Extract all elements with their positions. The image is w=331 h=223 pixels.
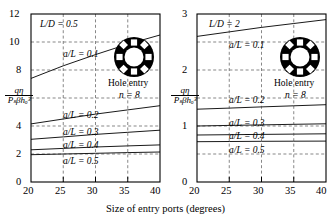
xtick-label-25-left: 25	[55, 185, 66, 196]
hole-entry-icon	[280, 37, 320, 77]
ytick-label-0-left: 0	[16, 176, 21, 187]
curve-label-a-L-0.4-right: a/L = 0.4	[229, 131, 265, 141]
x-axis-label: Size of entry ports (degrees)	[0, 203, 331, 214]
hole-entry-label-left: Hole entry	[108, 78, 148, 88]
ytick-label-3-right: 3	[182, 8, 187, 19]
ytick-label-2-right: 2	[182, 64, 187, 75]
y-axis-denominator-left: Pₛβhₒ³	[5, 96, 33, 105]
chart-panel-right: 3 2 1 0 qη Pₛβhₒ³ 20 25 30 35 40 L/D = 2…	[166, 0, 331, 223]
curve-label-a-L-0.5-right: a/L = 0.5	[229, 145, 265, 155]
curve-label-a-L-0.2-right: a/L = 0.2	[229, 95, 265, 105]
panel-title-left: L/D = 0.5	[40, 19, 78, 29]
curve-label-a-L-0.1-left: a/L = 0.1	[63, 49, 99, 59]
y-axis-label-left: qη Pₛβhₒ³	[5, 86, 33, 106]
xtick-label-40-right: 40	[316, 185, 327, 196]
hole-entry-icon	[114, 37, 154, 77]
hole-entry-label-right: Hole entry	[274, 78, 314, 88]
ytick-label-4-left: 4	[16, 120, 21, 131]
panel-title-right: L/D = 2	[209, 19, 240, 29]
curve-label-a-L-0.1-right: a/L = 0.1	[229, 40, 265, 50]
ytick-label-8-left: 8	[16, 64, 21, 75]
ytick-label-0-right: 0	[182, 176, 187, 187]
n-value-label-left: n = 8	[119, 90, 140, 100]
chart-panel-left: 12 10 8 4 2 0 qη Pₛβhₒ³ 20 25 30 35 40 L…	[0, 0, 165, 223]
figure-two-panel-chart: 12 10 8 4 2 0 qη Pₛβhₒ³ 20 25 30 35 40 L…	[0, 0, 331, 223]
xtick-label-35-left: 35	[119, 185, 130, 196]
ytick-label-12-left: 12	[9, 8, 20, 19]
y-axis-label-right: qη Pₛβhₒ³	[171, 86, 199, 106]
y-axis-denominator-right: Pₛβhₒ³	[171, 96, 199, 105]
curve-label-a-L-0.4-left: a/L = 0.4	[63, 140, 99, 150]
ytick-label-2-left: 2	[16, 148, 21, 159]
xtick-label-35-right: 35	[285, 185, 296, 196]
curve-a-L-0.5	[197, 141, 326, 142]
n-value-label-right: n = 8	[285, 90, 306, 100]
curve-label-a-L-0.3-right: a/L = 0.3	[229, 118, 265, 128]
curve-label-a-L-0.2-left: a/L = 0.2	[63, 110, 99, 120]
xtick-label-25-right: 25	[221, 185, 232, 196]
xtick-label-40-left: 40	[150, 185, 161, 196]
ytick-label-1-right: 1	[182, 120, 187, 131]
curve-label-a-L-0.3-left: a/L = 0.3	[63, 127, 99, 137]
xtick-label-30-left: 30	[87, 185, 98, 196]
ytick-label-10-left: 10	[9, 36, 20, 47]
xtick-label-20-right: 20	[189, 185, 200, 196]
xticks-right	[229, 177, 294, 182]
curve-label-a-L-0.5-left: a/L = 0.5	[63, 156, 99, 166]
xticks-left	[63, 177, 128, 182]
xtick-label-30-right: 30	[253, 185, 264, 196]
xtick-label-20-left: 20	[23, 185, 34, 196]
